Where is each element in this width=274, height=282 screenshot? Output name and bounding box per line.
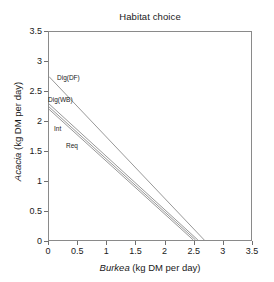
x-tick-mark — [165, 241, 166, 245]
y-tick-mark — [44, 91, 48, 92]
y-tick-label: 3.5 — [29, 26, 42, 36]
x-tick-label: 0.5 — [71, 246, 84, 256]
series-label-req: Req — [66, 142, 78, 149]
chart-title: Habitat choice — [48, 11, 252, 22]
series-line-int — [49, 107, 196, 240]
x-tick-mark — [135, 241, 136, 245]
x-tick-label: 1.5 — [129, 246, 142, 256]
series-line-req — [49, 109, 193, 240]
x-tick-label: 3 — [220, 246, 225, 256]
series-label-digdf: Dig(DF) — [57, 74, 80, 81]
y-tick-label: 1.5 — [29, 146, 42, 156]
x-tick-mark — [223, 241, 224, 245]
y-tick-mark — [44, 181, 48, 182]
plot-area — [48, 31, 252, 241]
y-tick-label: 0.5 — [29, 206, 42, 216]
y-tick-label: 3 — [37, 56, 42, 66]
series-label-int: Int — [54, 125, 61, 132]
y-tick-label: 2 — [37, 116, 42, 126]
x-tick-label: 0 — [45, 246, 50, 256]
x-axis-title: Burkea (kg DM per day) — [48, 262, 252, 273]
y-tick-mark — [44, 151, 48, 152]
y-axis-title-rest: (kg DM per day) — [12, 82, 23, 153]
x-tick-mark — [106, 241, 107, 245]
y-axis-title: Acacia (kg DM per day) — [12, 27, 23, 237]
y-tick-label: 0 — [37, 236, 42, 246]
y-tick-label: 2.5 — [29, 86, 42, 96]
y-tick-mark — [44, 211, 48, 212]
x-tick-label: 2 — [162, 246, 167, 256]
y-tick-mark — [44, 61, 48, 62]
x-tick-mark — [77, 241, 78, 245]
y-tick-mark — [44, 31, 48, 32]
y-axis-title-italic: Acacia — [12, 153, 23, 182]
y-tick-label: 1 — [37, 176, 42, 186]
series-line-digwb — [49, 104, 198, 240]
series-lines-svg — [49, 32, 251, 240]
x-tick-mark — [252, 241, 253, 245]
x-axis-title-italic: Burkea — [100, 262, 130, 273]
x-tick-mark — [48, 241, 49, 245]
y-tick-mark — [44, 121, 48, 122]
x-tick-mark — [194, 241, 195, 245]
x-axis-title-rest: (kg DM per day) — [130, 262, 201, 273]
series-label-digwb: Dig(WB) — [48, 96, 73, 103]
x-tick-label: 3.5 — [246, 246, 259, 256]
habitat-choice-figure: Habitat choice 00.511.522.533.5 00.511.5… — [0, 0, 274, 282]
x-tick-label: 1 — [104, 246, 109, 256]
x-tick-label: 2.5 — [187, 246, 200, 256]
